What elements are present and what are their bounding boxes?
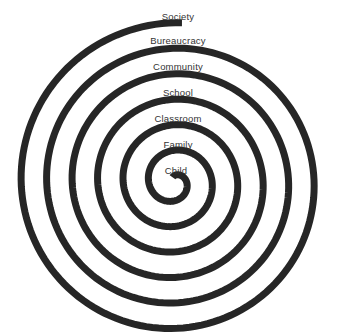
label-community: Community <box>153 61 203 72</box>
label-school: School <box>163 87 193 98</box>
label-society: Society <box>162 11 195 22</box>
label-bureaucracy: Bureaucracy <box>150 35 206 46</box>
label-child: Child <box>165 165 188 176</box>
label-family: Family <box>163 139 192 150</box>
label-classroom: Classroom <box>154 113 201 124</box>
